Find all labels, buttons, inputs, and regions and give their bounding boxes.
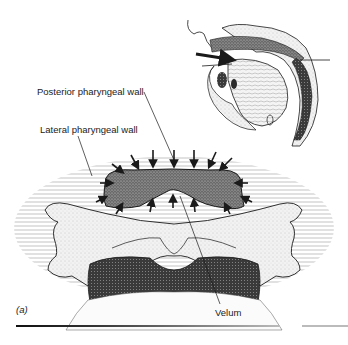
bottom-rule-right <box>302 325 348 327</box>
anatomical-illustration <box>0 0 348 345</box>
sagittal-section-inset <box>188 20 330 146</box>
label-posterior-pharyngeal-wall: Posterior pharyngeal wall <box>37 86 144 97</box>
panel-label: (a) <box>16 304 28 315</box>
velopharyngeal-closure-figure: Posterior pharyngeal wall Lateral pharyn… <box>0 0 348 345</box>
label-lateral-pharyngeal-wall: Lateral pharyngeal wall <box>40 124 138 135</box>
bottom-rule <box>16 325 280 327</box>
posterior-wall-leader <box>144 92 174 160</box>
label-velum: Velum <box>215 307 241 318</box>
